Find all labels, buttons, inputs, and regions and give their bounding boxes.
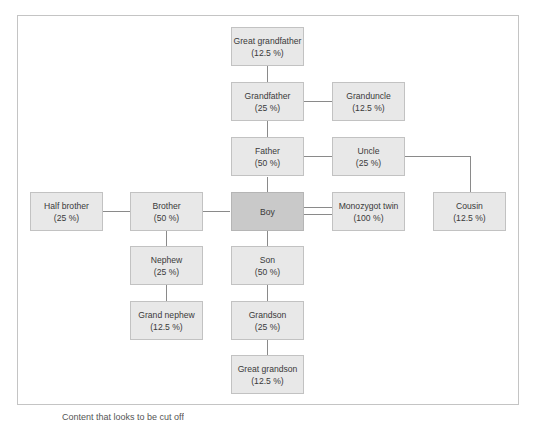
node-label: Grand nephew: [138, 309, 194, 321]
node-label: Monozygot twin: [339, 200, 399, 212]
node-percentage: (12.5 %): [251, 47, 283, 59]
connector-line: [267, 340, 268, 355]
node-label: Brother: [152, 200, 180, 212]
connector-line: [267, 121, 268, 137]
node-percentage: (25 %): [54, 212, 79, 224]
node-boy-focal: Boy: [231, 192, 304, 231]
connector-line: [405, 156, 471, 157]
node-monozygot-twin: Monozygot twin (100 %): [332, 192, 405, 231]
node-percentage: (12.5 %): [453, 212, 485, 224]
node-granduncle: Granduncle (12.5 %): [332, 82, 405, 121]
node-label: Great grandfather: [234, 35, 302, 47]
node-percentage: (25 %): [356, 157, 381, 169]
node-percentage: (100 %): [353, 212, 383, 224]
node-grandson: Grandson (25 %): [231, 301, 304, 340]
connector-line: [267, 285, 268, 301]
node-nephew: Nephew (25 %): [130, 246, 203, 285]
node-son: Son (50 %): [231, 246, 304, 285]
node-uncle: Uncle (25 %): [332, 137, 405, 176]
node-label: Son: [260, 254, 275, 266]
node-label: Nephew: [151, 254, 183, 266]
twin-double-line: [304, 207, 332, 208]
node-percentage: (50 %): [255, 157, 280, 169]
connector-line: [267, 66, 268, 82]
node-percentage: (12.5 %): [150, 321, 182, 333]
connector-line: [304, 156, 332, 157]
node-percentage: (50 %): [255, 266, 280, 278]
node-cousin: Cousin (12.5 %): [433, 192, 506, 231]
node-percentage: (12.5 %): [251, 375, 283, 387]
node-percentage: (25 %): [255, 102, 280, 114]
twin-double-line: [304, 214, 332, 215]
node-great-grandfather: Great grandfather (12.5 %): [231, 27, 304, 66]
node-percentage: (25 %): [255, 321, 280, 333]
connector-line: [267, 177, 268, 192]
node-label: Granduncle: [346, 90, 390, 102]
node-half-brother: Half brother (25 %): [30, 192, 103, 231]
node-percentage: (50 %): [154, 212, 179, 224]
node-grandfather: Grandfather (25 %): [231, 82, 304, 121]
connector-line: [103, 211, 130, 212]
connector-line: [203, 211, 230, 212]
node-label: Grandson: [249, 309, 287, 321]
connector-line: [166, 285, 167, 301]
connector-line: [304, 101, 332, 102]
node-great-grandson: Great grandson (12.5 %): [231, 355, 304, 394]
node-label: Uncle: [358, 145, 380, 157]
node-label: Boy: [260, 206, 275, 218]
node-label: Cousin: [456, 200, 483, 212]
node-percentage: (25 %): [154, 266, 179, 278]
node-label: Half brother: [44, 200, 89, 212]
node-label: Father: [255, 145, 280, 157]
connector-line: [267, 231, 268, 246]
node-father: Father (50 %): [231, 137, 304, 176]
node-percentage: (12.5 %): [352, 102, 384, 114]
node-label: Great grandson: [238, 363, 298, 375]
node-label: Grandfather: [245, 90, 291, 102]
node-grand-nephew: Grand nephew (12.5 %): [130, 301, 203, 340]
connector-line: [166, 231, 167, 246]
figure-caption-clipped: Content that looks to be cut off: [62, 412, 184, 424]
connector-line: [470, 156, 471, 192]
node-brother: Brother (50 %): [130, 192, 203, 231]
